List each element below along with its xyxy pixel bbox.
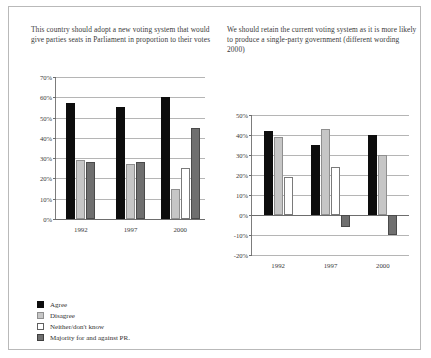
legend-label: Majority for and against PR. xyxy=(50,334,130,342)
x-axis-tick-label: 1997 xyxy=(304,262,356,269)
y-axis-tick-label: 40% xyxy=(40,134,52,141)
bar-neither xyxy=(331,167,340,215)
bar-group: 1997 xyxy=(106,77,156,219)
y-axis-tick-label: 10% xyxy=(236,192,248,199)
bars xyxy=(304,115,356,255)
figure-panel: This country should adopt a new voting s… xyxy=(8,6,421,350)
bar-agree xyxy=(161,97,170,219)
bar-groups: 199219972000 xyxy=(56,77,205,219)
y-axis-tick-label: 70% xyxy=(40,74,52,81)
bar-group: 1992 xyxy=(56,77,106,219)
legend-swatch-disagree xyxy=(37,312,44,319)
bar-agree xyxy=(264,131,273,215)
bar-disagree xyxy=(126,164,135,219)
gridline xyxy=(56,219,205,220)
bar-pr xyxy=(136,162,145,219)
legend-item: Disagree xyxy=(37,310,130,321)
bars xyxy=(56,77,106,219)
bar-pr xyxy=(86,162,95,219)
gridline xyxy=(252,255,409,256)
y-axis-tick-label: 0% xyxy=(239,212,248,219)
chart-right: 50%40%30%20%10%0%-10%-20%199219972000 xyxy=(217,107,415,285)
bar-neither xyxy=(181,168,190,219)
y-axis-tick-label: 10% xyxy=(40,195,52,202)
legend-swatch-agree xyxy=(37,301,44,308)
bars xyxy=(252,115,304,255)
legend-label: Neither/don't know xyxy=(50,323,104,331)
chart-title-left: This country should adopt a new voting s… xyxy=(31,25,219,45)
bars xyxy=(106,77,156,219)
y-axis-tick-label: 20% xyxy=(40,175,52,182)
y-axis-tick-label: 40% xyxy=(236,132,248,139)
y-axis-tick-label: -20% xyxy=(234,252,248,259)
plot-area-left: 70%60%50%40%30%20%10%0%199219972000 xyxy=(55,77,205,219)
y-axis-tick-label: 30% xyxy=(236,152,248,159)
bar-disagree xyxy=(321,129,330,215)
x-axis-tick-label: 1992 xyxy=(252,262,304,269)
x-axis-tick-label: 2000 xyxy=(155,226,205,233)
legend-item: Agree xyxy=(37,299,130,310)
bar-disagree xyxy=(76,160,85,219)
legend-label: Agree xyxy=(50,301,67,309)
legend-label: Disagree xyxy=(50,312,75,320)
y-axis-tick-label: -10% xyxy=(234,232,248,239)
legend-swatch-pr xyxy=(37,334,44,341)
legend: AgreeDisagreeNeither/don't knowMajority … xyxy=(37,299,130,343)
bar-agree xyxy=(368,135,377,215)
bar-pr xyxy=(191,128,200,219)
bar-group: 2000 xyxy=(357,115,409,255)
bar-agree xyxy=(66,103,75,219)
legend-item: Majority for and against PR. xyxy=(37,332,130,343)
bars xyxy=(357,115,409,255)
legend-item: Neither/don't know xyxy=(37,321,130,332)
x-axis-tick-label: 2000 xyxy=(357,262,409,269)
bar-agree xyxy=(116,107,125,219)
bar-neither xyxy=(284,177,293,215)
legend-swatch-neither xyxy=(37,323,44,330)
x-axis-tick-label: 1992 xyxy=(56,226,106,233)
bars xyxy=(155,77,205,219)
bar-agree xyxy=(311,145,320,215)
bar-disagree xyxy=(171,189,180,219)
y-axis-tick-label: 30% xyxy=(40,155,52,162)
y-axis-tick-label: 50% xyxy=(40,114,52,121)
bar-disagree xyxy=(378,155,387,215)
bar-pr xyxy=(341,215,350,227)
x-axis-tick-label: 1997 xyxy=(106,226,156,233)
y-axis-tick-mark xyxy=(249,255,252,256)
bar-group: 1997 xyxy=(304,115,356,255)
bar-disagree xyxy=(274,137,283,215)
bar-pr xyxy=(388,215,397,235)
plot-area-right: 50%40%30%20%10%0%-10%-20%199219972000 xyxy=(251,115,409,255)
y-axis-tick-label: 50% xyxy=(236,112,248,119)
bar-groups: 199219972000 xyxy=(252,115,409,255)
y-axis-tick-label: 60% xyxy=(40,94,52,101)
chart-left: 70%60%50%40%30%20%10%0%199219972000 xyxy=(25,69,211,249)
bar-group: 1992 xyxy=(252,115,304,255)
chart-title-right: We should retain the current voting syst… xyxy=(227,25,417,56)
y-axis-tick-label: 20% xyxy=(236,172,248,179)
bar-group: 2000 xyxy=(155,77,205,219)
y-axis-tick-mark xyxy=(53,219,56,220)
y-axis-tick-label: 0% xyxy=(43,216,52,223)
